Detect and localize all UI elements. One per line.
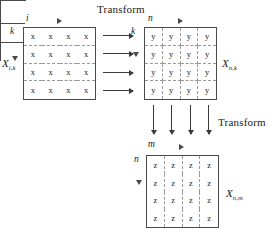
index-arrow-n-top [0, 23, 25, 24]
index-arrowhead-n-top [178, 18, 183, 24]
flow-arrow-right-4 [103, 90, 133, 91]
matrix-cell: y [145, 46, 163, 64]
transform-label-top: Transform [97, 4, 145, 15]
flow-arrow-down-3 [190, 105, 191, 134]
matrix-cell: y [145, 28, 163, 46]
matrix-cell: x [77, 46, 95, 64]
flow-arrow-right-2 [103, 53, 133, 54]
index-arrow-k-left [0, 1, 1, 23]
matrix-cell: y [181, 28, 199, 46]
matrix-cell: y [181, 64, 199, 82]
matrix-cell: x [42, 64, 60, 82]
matrix-cell: x [60, 46, 78, 64]
matrix-cell: x [77, 81, 95, 99]
matrix-cell: z [183, 209, 201, 227]
matrix-name-x-nk: X [222, 57, 229, 69]
matrix-cell: x [24, 46, 42, 64]
index-label-i: i [26, 14, 29, 24]
figure-canvas: Transform i k Xi,k xxxxxxxxxxxxxxxx n k … [0, 0, 276, 240]
matrix-cell: z [165, 192, 183, 210]
matrix-cell: y [198, 64, 216, 82]
matrix-cell: y [145, 64, 163, 82]
index-arrowhead-n-left [136, 180, 142, 185]
matrix-x-nm: zzzzzzzzzzzzzzzz [146, 155, 219, 228]
matrix-cell: z [183, 174, 201, 192]
matrix-cell: x [42, 81, 60, 99]
matrix-cell: x [60, 81, 78, 99]
matrix-cell: x [77, 64, 95, 82]
matrix-cell: x [42, 46, 60, 64]
matrix-subscript-x-nm: n,m [233, 194, 243, 201]
index-label-n-top: n [148, 14, 153, 24]
index-arrow-i [0, 0, 26, 1]
matrix-label-x-nk: Xn,k [222, 58, 237, 72]
matrix-cell: x [42, 28, 60, 46]
matrix-cell: z [200, 192, 218, 210]
matrix-x-nk: yyyyyyyyyyyyyyyy [144, 27, 217, 100]
matrix-cell: z [165, 174, 183, 192]
matrix-name-x-ik: X [2, 57, 9, 69]
index-label-m: m [148, 140, 155, 150]
matrix-cell: z [165, 156, 183, 174]
matrix-cell: y [198, 28, 216, 46]
flow-arrow-right-3 [103, 72, 133, 73]
matrix-cell: z [200, 174, 218, 192]
matrix-cell: y [181, 81, 199, 99]
matrix-cell: x [60, 64, 78, 82]
index-arrow-k-mid [0, 24, 1, 42]
matrix-cell: z [200, 156, 218, 174]
matrix-cell: z [147, 192, 165, 210]
flow-arrow-down-1 [153, 105, 154, 134]
flow-arrow-down-4 [208, 105, 209, 134]
matrix-cell: y [163, 28, 181, 46]
matrix-cell: x [24, 81, 42, 99]
index-arrowhead-m [179, 144, 184, 150]
index-label-n-left: n [134, 155, 139, 165]
index-label-k-mid: k [131, 27, 135, 37]
matrix-cell: y [163, 46, 181, 64]
index-arrow-m [0, 42, 24, 43]
flow-arrow-down-2 [171, 105, 172, 134]
index-arrowhead-k-mid [133, 52, 139, 57]
matrix-subscript-x-nk: n,k [229, 64, 237, 71]
matrix-x-ik: xxxxxxxxxxxxxxxx [23, 27, 96, 100]
matrix-cell: z [183, 192, 201, 210]
matrix-cell: z [147, 156, 165, 174]
matrix-cell: z [147, 209, 165, 227]
matrix-cell: y [181, 46, 199, 64]
matrix-name-x-nm: X [226, 187, 233, 199]
matrix-cell: z [200, 209, 218, 227]
matrix-cell: x [24, 64, 42, 82]
matrix-cell: x [60, 28, 78, 46]
matrix-cell: y [198, 46, 216, 64]
transform-label-right: Transform [218, 117, 266, 128]
matrix-label-x-nm: Xn,m [226, 188, 243, 202]
matrix-cell: y [145, 81, 163, 99]
matrix-subscript-x-ik: i,k [9, 64, 16, 71]
flow-arrow-right-1 [103, 35, 133, 36]
matrix-label-x-ik: Xi,k [2, 58, 15, 72]
matrix-cell: y [163, 81, 181, 99]
matrix-cell: y [163, 64, 181, 82]
matrix-cell: z [165, 209, 183, 227]
matrix-cell: x [77, 28, 95, 46]
matrix-cell: y [198, 81, 216, 99]
matrix-cell: z [147, 174, 165, 192]
index-label-k-left: k [10, 27, 14, 37]
matrix-cell: z [183, 156, 201, 174]
index-arrowhead-i [57, 18, 62, 24]
index-arrow-n-left [0, 43, 1, 61]
matrix-cell: x [24, 28, 42, 46]
